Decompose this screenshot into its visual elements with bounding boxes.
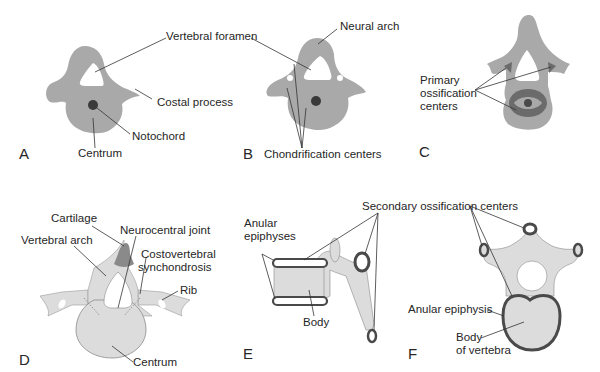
label-chondrification-centers: Chondrification centers [264, 148, 382, 161]
panel-c-vertebra [475, 15, 570, 130]
label-notochord: Notochord [132, 130, 185, 143]
vertebral-development-diagram [0, 0, 600, 372]
panel-letter-b: B [243, 145, 253, 162]
label-anular-line2: epiphyses [244, 230, 296, 243]
panel-letter-d: D [19, 351, 30, 368]
label-rib: Rib [180, 284, 197, 297]
label-body-line2: of vertebra [456, 344, 511, 357]
panel-f-secondary-ossification-transverse-left [480, 244, 488, 256]
panel-e-articular-process [330, 238, 340, 262]
panel-letter-f: F [408, 345, 417, 362]
label-secondary-ossification-centers: Secondary ossification centers [362, 200, 518, 213]
panel-f-vertebral-body [503, 295, 560, 350]
label-costal-process: Costal process [157, 96, 233, 109]
panel-f-secondary-ossification-transverse-right [574, 244, 582, 256]
label-vertebral-foramen: Vertebral foramen [166, 30, 257, 43]
label-costovertebral-line2: synchondrosis [138, 261, 212, 274]
label-primary-line1: Primary [420, 74, 460, 87]
panel-b-notochord [311, 96, 321, 106]
panel-f-vertebral-foramen [517, 261, 547, 291]
label-vertebral-arch: Vertebral arch [21, 234, 93, 247]
panel-b-chondrification-center-left [287, 75, 293, 81]
panel-e-secondary-ossification-spinous [368, 330, 376, 342]
panel-e-secondary-ossification-transverse [355, 253, 369, 271]
panel-b-chondrification-center-right [337, 75, 343, 81]
label-costovertebral-line1: Costovertebral [141, 248, 216, 261]
panel-e-anular-epiphysis-top [273, 259, 327, 267]
label-primary-line2: ossification [420, 87, 477, 100]
panel-d-centrum [76, 300, 146, 358]
label-neurocentral-joint: Neurocentral joint [120, 224, 210, 237]
panel-b-vertebra [251, 29, 366, 148]
panel-letter-e: E [243, 345, 253, 362]
label-neural-arch: Neural arch [340, 20, 399, 33]
panel-letter-c: C [419, 143, 430, 160]
panel-e-anular-epiphysis-bottom [273, 297, 327, 305]
panel-a-notochord [88, 100, 98, 110]
label-anular-epiphysis: Anular epiphysis [408, 303, 492, 316]
panel-letter-a: A [19, 145, 29, 162]
label-centrum-a: Centrum [78, 147, 122, 160]
label-primary-line3: centers [420, 100, 458, 113]
panel-b-mesenchyme-body [266, 38, 366, 130]
label-anular-line1: Anular [244, 217, 277, 230]
label-body-line1: Body [456, 331, 482, 344]
label-cartilage: Cartilage [51, 212, 97, 225]
panel-f-vertebra-superior [470, 206, 582, 350]
panel-f-secondary-ossification-spinous [524, 224, 536, 234]
label-centrum-d: Centrum [133, 356, 177, 369]
panel-c-notochord [524, 99, 532, 107]
label-body-e: Body [303, 316, 329, 329]
